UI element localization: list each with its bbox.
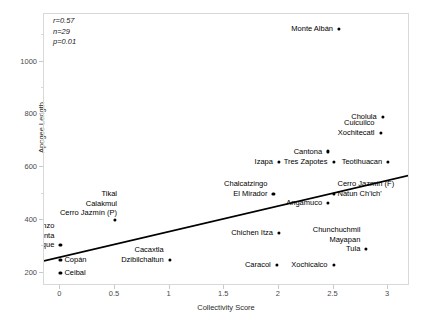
data-point-label: Chichen Itza [231, 228, 273, 238]
x-tick-mark [278, 285, 279, 289]
data-point-label: Cerro Jazmín (F) Natun Ch'ich' [338, 179, 395, 198]
data-point-label: Cantona [294, 147, 322, 157]
data-point-label: Izapa [255, 157, 273, 167]
data-point-label: Angamuco [286, 198, 322, 208]
y-tick-label: 600 [7, 162, 37, 171]
y-tick-label: 200 [7, 267, 37, 276]
data-point-label: San Lorenzo La Venta Palenque [43, 221, 54, 250]
x-tick-label: 2.5 [316, 289, 350, 298]
data-point-label: Cacaxtla Dzibilchaltun [121, 245, 164, 264]
x-tick-label: 0.5 [97, 289, 131, 298]
data-point-label: Monte Albán [291, 24, 333, 34]
x-tick-mark [59, 285, 60, 289]
data-point-label: Chunchuchmil Mayapan Tula [313, 225, 361, 254]
data-point-label: Chalcatzingo El Mirador [224, 179, 267, 198]
data-point-label: Tikal Calakmul Cerro Jazmín (P) [60, 189, 117, 218]
x-tick-label: 3 [370, 289, 404, 298]
y-tick-label: 800 [7, 109, 37, 118]
x-tick-label: 0 [42, 289, 76, 298]
x-axis-title: Collectivity Score [43, 303, 409, 312]
y-tick-label: 1000 [7, 56, 37, 65]
data-point-label: Teotihuacan [342, 157, 382, 167]
plot-area: CeibalCopánSan Lorenzo La Venta Palenque… [43, 13, 409, 285]
x-tick-label: 1.5 [206, 289, 240, 298]
data-point-label: Ceibal [64, 268, 85, 278]
x-tick-label: 2 [261, 289, 295, 298]
data-point-label: Xochicalco [291, 260, 327, 270]
data-point-label: Copán [64, 255, 86, 265]
x-tick-mark [223, 285, 224, 289]
x-tick-label: 1 [152, 289, 186, 298]
data-point-label: Caracol [245, 260, 271, 270]
x-tick-mark [169, 285, 170, 289]
data-point-label: Cuicuilco Xochitecatl [338, 118, 375, 137]
x-tick-mark [333, 285, 334, 289]
scatter-chart: Apogee Length Collectivity Score 2004006… [0, 0, 423, 318]
y-tick-label: 400 [7, 214, 37, 223]
x-tick-mark [387, 285, 388, 289]
x-tick-mark [114, 285, 115, 289]
data-point-label: Tres Zapotes [284, 157, 328, 167]
